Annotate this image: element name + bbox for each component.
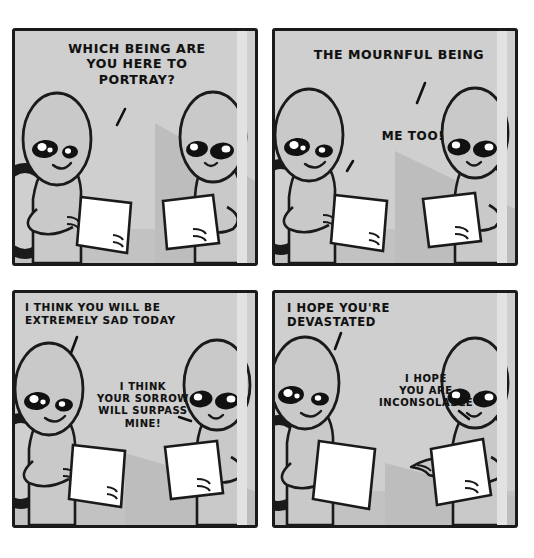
comic-panel-grid: WHICH BEING ARE YOU HERE TO PORTRAY? bbox=[12, 28, 518, 528]
panel-4-dialogue-2: I HOPE YOU ARE INCONSOLABLE bbox=[367, 373, 485, 410]
comic-panel-4: I HOPE YOU'RE DEVASTATED I HOPE YOU ARE … bbox=[272, 290, 518, 528]
panel-4-inner: I HOPE YOU'RE DEVASTATED I HOPE YOU ARE … bbox=[275, 293, 515, 525]
comic-panel-2: THE MOURNFUL BEING ME TOO! bbox=[272, 28, 518, 266]
panel-1-edge-highlight bbox=[237, 31, 247, 263]
panel-3-inner: I THINK YOU WILL BE EXTREMELY SAD TODAY … bbox=[15, 293, 255, 525]
panel-2-edge-highlight bbox=[497, 31, 507, 263]
panel-2-artwork bbox=[275, 31, 515, 263]
panel-4-dialogue-1: I HOPE YOU'RE DEVASTATED bbox=[287, 301, 447, 329]
comic-page: WHICH BEING ARE YOU HERE TO PORTRAY? bbox=[0, 0, 534, 558]
panel-4-edge-highlight bbox=[497, 293, 507, 525]
comic-panel-1: WHICH BEING ARE YOU HERE TO PORTRAY? bbox=[12, 28, 258, 266]
panel-1-inner: WHICH BEING ARE YOU HERE TO PORTRAY? bbox=[15, 31, 255, 263]
panel-3-dialogue-1: I THINK YOU WILL BE EXTREMELY SAD TODAY bbox=[25, 301, 225, 327]
comic-panel-3: I THINK YOU WILL BE EXTREMELY SAD TODAY … bbox=[12, 290, 258, 528]
panel-2-dialogue-1: THE MOURNFUL BEING bbox=[301, 47, 497, 62]
panel-2-inner: THE MOURNFUL BEING ME TOO! bbox=[275, 31, 515, 263]
panel-3-dialogue-2: I THINK YOUR SORROW WILL SURPASS MINE! bbox=[89, 381, 197, 430]
panel-2-dialogue-2: ME TOO! bbox=[367, 129, 459, 144]
panel-3-edge-highlight bbox=[237, 293, 247, 525]
panel-1-dialogue-1: WHICH BEING ARE YOU HERE TO PORTRAY? bbox=[37, 41, 237, 87]
